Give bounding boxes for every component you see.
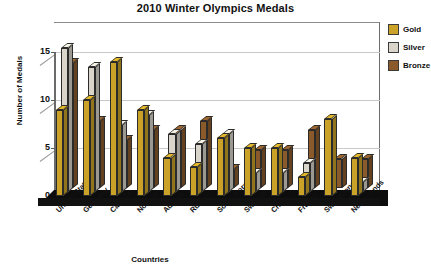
bars-layer <box>0 0 431 276</box>
bar-face <box>163 158 170 196</box>
legend-item-gold[interactable]: Gold <box>388 24 431 35</box>
bar-face <box>244 148 251 196</box>
legend-swatch-silver <box>388 42 399 53</box>
bar-face <box>110 62 117 196</box>
legend-swatch-gold <box>388 24 399 35</box>
legend: GoldSilverBronze <box>388 24 431 78</box>
bar-side <box>154 126 159 188</box>
bar-side <box>251 144 256 196</box>
bar-face <box>83 100 90 196</box>
bar-gold-france <box>298 177 305 196</box>
chart-container: 2010 Winter Olympics Medals Number of Me… <box>0 0 431 276</box>
bar-gold-china <box>271 148 278 196</box>
bar-side <box>73 59 78 188</box>
bar-face <box>324 119 331 196</box>
bar-gold-austria <box>163 158 170 196</box>
bar-side <box>310 159 315 192</box>
bar-side <box>224 134 229 196</box>
x-axis-title: Countries <box>0 255 300 264</box>
bar-side <box>117 58 122 196</box>
bar-side <box>342 155 347 188</box>
bar-side <box>68 44 73 192</box>
bar-side <box>63 106 68 196</box>
legend-item-silver[interactable]: Silver <box>388 42 431 53</box>
bar-gold-germany <box>83 100 90 196</box>
bar-side <box>176 130 181 192</box>
bar-side <box>95 63 100 192</box>
bar-side <box>127 136 132 188</box>
bar-gold-sweden <box>244 148 251 196</box>
bar-side <box>288 146 293 188</box>
bar-side <box>229 130 234 192</box>
bar-side <box>181 126 186 188</box>
bar-gold-russia <box>190 167 197 196</box>
bar-gold-switzerland <box>324 119 331 196</box>
bar-face <box>271 148 278 196</box>
bar-side <box>358 154 363 196</box>
bar-gold-south-korea <box>217 138 224 196</box>
bar-side <box>197 163 202 196</box>
bar-gold-united-states <box>56 110 63 196</box>
bar-side <box>261 146 266 188</box>
bar-gold-netherlands <box>351 158 358 196</box>
bar-side <box>149 111 154 192</box>
legend-swatch-bronze <box>388 60 399 71</box>
legend-item-bronze[interactable]: Bronze <box>388 60 431 71</box>
legend-label: Silver <box>403 43 425 52</box>
bar-face <box>137 110 144 196</box>
bar-gold-norway <box>137 110 144 196</box>
legend-label: Gold <box>403 25 421 34</box>
bar-face <box>298 177 305 196</box>
bar-side <box>332 115 337 196</box>
bar-side <box>90 96 95 196</box>
bar-side <box>207 117 212 188</box>
bar-gold-canada <box>110 62 117 196</box>
bar-side <box>278 144 283 196</box>
bar-side <box>144 106 149 196</box>
bar-side <box>368 155 373 188</box>
legend-label: Bronze <box>403 61 430 70</box>
bar-side <box>202 140 207 192</box>
bar-side <box>100 117 105 188</box>
bar-side <box>171 154 176 196</box>
bar-side <box>122 121 127 192</box>
